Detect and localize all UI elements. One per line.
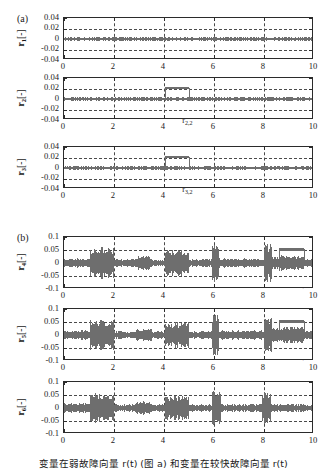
yaxis-label: r6[-]	[16, 372, 30, 442]
subplot-r1	[63, 17, 313, 59]
x-tick-label: 4	[151, 436, 175, 445]
fault-step-falling-edge	[304, 321, 305, 335]
x-tick-label: 8	[251, 291, 275, 300]
signal-trace	[64, 309, 312, 359]
ylabel-unit: [-]	[16, 254, 26, 264]
subplot-r3	[63, 146, 313, 188]
fault-step-falling-edge	[189, 157, 190, 168]
x-tick-label: 4	[151, 291, 175, 300]
x-tick-label: 0	[51, 122, 75, 131]
axes-frame	[63, 381, 313, 433]
yaxis-label: r3[-]	[16, 132, 30, 202]
x-tick-label: 0	[51, 291, 75, 300]
signal-trace	[64, 18, 312, 58]
fault-step-rising-edge	[165, 88, 166, 99]
ylabel-symbol: r6	[16, 408, 26, 415]
yaxis-label: r2[-]	[16, 63, 30, 133]
signal-trace	[64, 147, 312, 187]
x-tick-label: 4	[151, 363, 175, 372]
axes-frame	[63, 236, 313, 288]
x-tick-label: 6	[201, 62, 225, 71]
x-tick-label: 10	[301, 436, 325, 445]
x-tick-label: 6	[201, 191, 225, 200]
x-tick-label: 4	[151, 191, 175, 200]
signal-trace	[64, 78, 312, 118]
fault-step-plateau	[279, 248, 304, 251]
subplot-r4	[63, 236, 313, 288]
x-tick-label: 10	[301, 291, 325, 300]
x-tick-label: 2	[101, 436, 125, 445]
x-tick-label: 10	[301, 191, 325, 200]
x-tick-label: 6	[201, 291, 225, 300]
x-tick-label: 0	[51, 363, 75, 372]
x-tick-label: 10	[301, 122, 325, 131]
subplot-r5	[63, 308, 313, 360]
ylabel-symbol: r2	[16, 99, 26, 106]
x-tick-label: 10	[301, 62, 325, 71]
ylabel-symbol: r3	[16, 168, 26, 175]
fault-step-falling-edge	[189, 88, 190, 99]
axes-frame	[63, 146, 313, 188]
x-tick-label: 2	[101, 122, 125, 131]
x-tick-label: 2	[101, 191, 125, 200]
fault-step-rising-edge	[279, 321, 280, 335]
figure-caption: 变量在弱故障向量 r(t) (图 a) 和变量在较快故障向量 r(t)	[0, 456, 327, 470]
axes-frame	[63, 77, 313, 119]
x-tick-label: 8	[251, 191, 275, 200]
ylabel-symbol: r4	[16, 263, 26, 270]
x-tick-label: 2	[101, 363, 125, 372]
x-tick-label: 2	[101, 62, 125, 71]
x-tick-label: 6	[201, 436, 225, 445]
subplot-r2	[63, 77, 313, 119]
x-tick-label: 8	[251, 122, 275, 131]
fault-step-plateau	[279, 320, 304, 323]
fault-step-plateau	[165, 87, 189, 89]
x-tick-label: 10	[301, 363, 325, 372]
x-tick-label: 6	[201, 363, 225, 372]
ylabel-unit: [-]	[16, 326, 26, 336]
yaxis-label: r5[-]	[16, 299, 30, 369]
ylabel-unit: [-]	[16, 159, 26, 169]
x-tick-label: 2	[101, 291, 125, 300]
signal-trace	[64, 237, 312, 287]
fault-step-plateau	[165, 156, 189, 158]
axes-frame	[63, 17, 313, 59]
subplot-r6	[63, 381, 313, 433]
yaxis-label: r4[-]	[16, 227, 30, 297]
x-tick-label: 8	[251, 62, 275, 71]
signal-trace	[64, 382, 312, 432]
ylabel-symbol: r5	[16, 335, 26, 342]
x-tick-label: 4	[151, 122, 175, 131]
x-tick-label: 4	[151, 62, 175, 71]
ylabel-unit: [-]	[16, 30, 26, 40]
x-tick-label: 6	[201, 122, 225, 131]
ylabel-unit: [-]	[16, 399, 26, 409]
x-tick-label: 8	[251, 436, 275, 445]
axes-frame	[63, 308, 313, 360]
fault-step-rising-edge	[165, 157, 166, 168]
x-tick-label: 0	[51, 62, 75, 71]
ylabel-symbol: r1	[16, 39, 26, 46]
x-tick-label: 0	[51, 191, 75, 200]
ylabel-unit: [-]	[16, 90, 26, 100]
fault-step-rising-edge	[279, 249, 280, 263]
x-tick-label: 8	[251, 363, 275, 372]
fault-step-falling-edge	[304, 249, 305, 263]
x-tick-label: 0	[51, 436, 75, 445]
